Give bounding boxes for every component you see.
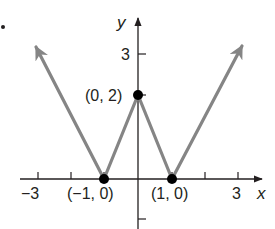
list-bullet <box>1 25 5 29</box>
y-axis-label: y <box>116 13 127 32</box>
graph-canvas: y x 3 −3 3 (0, 2) (−1, 0) (1, 0) <box>0 0 275 229</box>
x-axis-label: x <box>256 184 266 203</box>
function-graph <box>36 46 242 179</box>
point-1-0 <box>167 174 177 184</box>
y-tick-label-3: 3 <box>121 46 130 63</box>
x-tick-label-3: 3 <box>232 185 241 202</box>
y-ticks <box>138 54 146 219</box>
point-neg1-0 <box>99 174 109 184</box>
point-label-neg1-0: (−1, 0) <box>67 185 114 202</box>
x-tick-label-neg3: −3 <box>21 185 39 202</box>
point-label-1-0: (1, 0) <box>151 185 188 202</box>
point-0-2 <box>133 90 143 100</box>
point-label-0-2: (0, 2) <box>85 87 122 104</box>
